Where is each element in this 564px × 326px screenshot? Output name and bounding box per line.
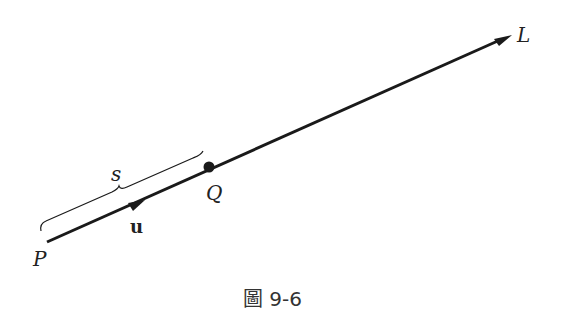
point-q: [204, 162, 215, 173]
label-q: Q: [206, 181, 222, 205]
figure-caption: 圖 9-6: [243, 287, 302, 311]
line-l: [47, 40, 500, 242]
diagram-canvas: L P Q s u 圖 9-6: [0, 0, 564, 326]
label-p: P: [32, 247, 47, 271]
arrowhead-u-icon: [128, 200, 145, 211]
arrowhead-l-icon: [494, 35, 512, 46]
label-s: s: [111, 162, 121, 186]
label-l: L: [516, 23, 530, 47]
brace-s: [41, 151, 203, 231]
label-u: u: [130, 216, 143, 237]
